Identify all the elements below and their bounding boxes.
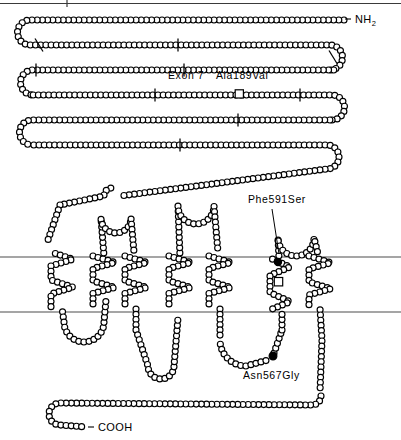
phe591ser-marker [274, 258, 281, 265]
ala189val-marker [235, 90, 243, 98]
chain-bead [263, 358, 269, 364]
chain-bead [306, 302, 312, 308]
chain-bead [317, 385, 323, 391]
asn567gly-label: Asn567Gly [243, 369, 300, 381]
chain-bead [166, 301, 172, 307]
chain-bead [25, 141, 31, 147]
chain-bead [103, 299, 109, 305]
marker-layer [235, 90, 282, 360]
exon-boundary-tick [329, 51, 337, 64]
ala189val-label: Ala189Val [216, 69, 269, 81]
chain-bead [90, 301, 96, 307]
chain-bead [121, 192, 127, 198]
phe591ser-square-marker [274, 278, 282, 286]
exon-7-label: Exon 7 [168, 69, 204, 81]
top-rule-group [0, 0, 401, 7]
n-terminus-text: NH [355, 13, 372, 25]
chain-bead [45, 236, 51, 242]
chain-bead [79, 424, 85, 430]
chain-bead [48, 304, 54, 310]
topology-figure: Exon 7Ala189ValPhe591SerAsn567Gly NH2 CO… [0, 0, 401, 440]
chain-bead [279, 311, 285, 317]
n-terminus-label: NH2 [355, 13, 376, 28]
phe591ser-label: Phe591Ser [248, 193, 306, 205]
chain-bead [217, 332, 223, 338]
chain-bead [131, 247, 137, 253]
c-terminus-label: COOH [98, 421, 133, 433]
chain-bead [314, 249, 320, 255]
n-terminus-subscript: 2 [372, 19, 377, 28]
asn567gly-marker [269, 352, 277, 360]
protein-topology-svg: Exon 7Ala189ValPhe591SerAsn567Gly NH2 CO… [0, 0, 401, 440]
chain-bead [215, 245, 221, 251]
chain-bead [206, 301, 212, 307]
chain-bead [122, 301, 128, 307]
chain-bead [270, 306, 276, 312]
chain-bead [175, 317, 181, 323]
